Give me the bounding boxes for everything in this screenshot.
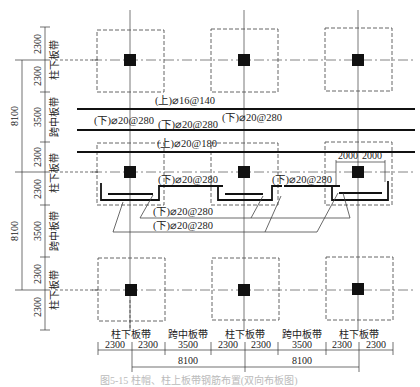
svg-text:2300: 2300 [32,147,43,167]
svg-text:8100: 8100 [9,221,20,241]
axis-lines [92,60,415,290]
svg-text:2300: 2300 [32,179,43,199]
svg-text:2300: 2300 [366,339,386,350]
cap-dim-left: 2000 [338,150,358,161]
rebar-label-bottom-middle-left: (下)⌀20@280 [94,115,154,127]
svg-text:2300: 2300 [138,339,158,350]
svg-text:2300: 2300 [32,66,43,86]
svg-text:2300: 2300 [218,339,238,350]
rebar-label-bottom-middle-right: (下)⌀20@280 [222,112,282,124]
svg-text:2300: 2300 [251,339,271,350]
svg-text:3500: 3500 [32,221,43,241]
column [238,284,250,296]
column [238,54,250,66]
svg-text:2300: 2300 [32,297,43,317]
svg-text:2300: 2300 [105,339,125,350]
column-strip-bottom-bars [101,181,388,200]
column [352,283,364,295]
slab-reinforcement-diagram: 2000 2000 (上)⌀16@140 (下)⌀20@280 (下)⌀20@2… [0,0,420,387]
svg-text:3500: 3500 [32,107,43,127]
svg-text:8100: 8100 [292,355,312,366]
column [124,54,136,66]
svg-text:2300: 2300 [332,339,352,350]
svg-text:跨中板带: 跨中板带 [48,97,60,137]
rebar-label-top-middle: (上)⌀16@140 [155,95,215,107]
svg-text:3500: 3500 [292,339,312,350]
svg-text:8100: 8100 [178,355,198,366]
column [352,166,364,178]
leader-lines [113,193,350,232]
rebar-label-leader-2: (下)⌀20@280 [153,220,213,232]
svg-text:2300: 2300 [32,264,43,284]
svg-text:2300: 2300 [32,34,43,54]
bottom-dimension-text: 柱下板带 跨中板带 柱下板带 跨中板带 柱下板带 2300 2300 3500 … [105,328,386,366]
left-dimension-text: 8100 8100 2300 2300 3500 2300 2300 3500 … [9,34,60,317]
svg-text:跨中板带: 跨中板带 [48,211,60,251]
column [352,54,364,66]
rebar-label-bottom-column-b: (下)⌀20@280 [272,174,332,186]
rebar-label-bottom-column-a: (下)⌀20@280 [158,174,218,186]
rebar-label-top-column: (上)⌀20@180 [157,138,217,150]
rebar-label-leader-1: (下)⌀20@280 [153,206,213,218]
svg-text:柱下板带: 柱下板带 [48,40,60,80]
svg-text:8100: 8100 [9,106,20,126]
column [125,284,137,296]
rebar-label-bottom-middle-center: (下)⌀20@280 [158,119,218,131]
figure-caption: 图5-15 柱帽、柱上板带钢筋布置(双向布板图) [100,374,298,387]
cap-dim-right: 2000 [362,150,382,161]
svg-text:柱下板带: 柱下板带 [48,270,60,310]
column [124,166,136,178]
column [238,166,250,178]
svg-text:柱下板带: 柱下板带 [48,153,60,193]
svg-text:3500: 3500 [178,339,198,350]
